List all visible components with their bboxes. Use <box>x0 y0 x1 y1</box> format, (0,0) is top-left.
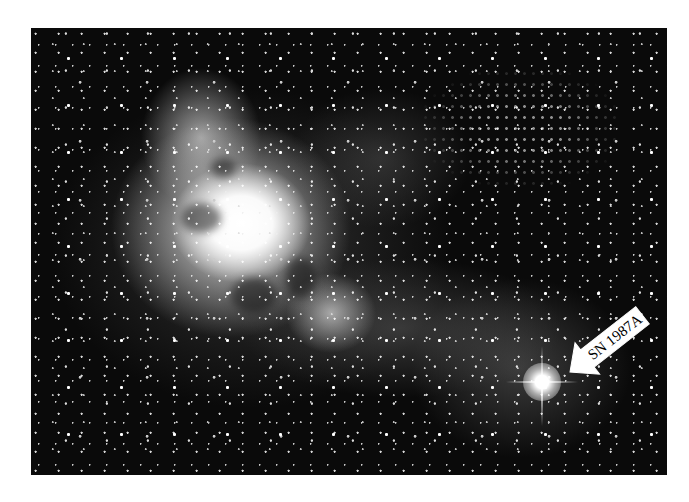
star-cluster <box>421 68 621 188</box>
diffraction-spike <box>541 346 543 426</box>
nebula-photograph <box>31 28 667 475</box>
